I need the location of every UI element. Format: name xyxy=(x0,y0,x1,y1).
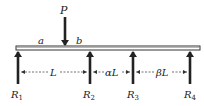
span-betaL-label: βL xyxy=(155,67,169,78)
segment-a-label: a xyxy=(38,35,44,46)
beam-diagram: P a b R1 R2 R3 R4 L αL βL xyxy=(0,0,204,106)
beam xyxy=(16,46,200,50)
reaction-R4-label: R4 xyxy=(183,89,197,102)
support-R3: R3 xyxy=(126,52,139,102)
support-R4: R4 xyxy=(183,52,197,102)
support-R1: R1 xyxy=(10,52,23,102)
reaction-R1-label: R1 xyxy=(10,89,23,102)
reaction-R3-label: R3 xyxy=(126,89,139,102)
segment-b-label: b xyxy=(76,35,82,46)
beam-svg: P a b R1 R2 R3 R4 L αL βL xyxy=(0,0,204,106)
support-R2: R2 xyxy=(82,52,95,102)
load-arrow-P: P xyxy=(59,4,68,45)
reaction-R2-label: R2 xyxy=(82,89,95,102)
load-label: P xyxy=(59,4,68,17)
span-L: L xyxy=(21,67,87,78)
span-L-label: L xyxy=(49,67,57,78)
span-betaL: βL xyxy=(136,67,187,78)
span-alphaL: αL xyxy=(93,67,130,78)
span-alphaL-label: αL xyxy=(105,67,119,78)
